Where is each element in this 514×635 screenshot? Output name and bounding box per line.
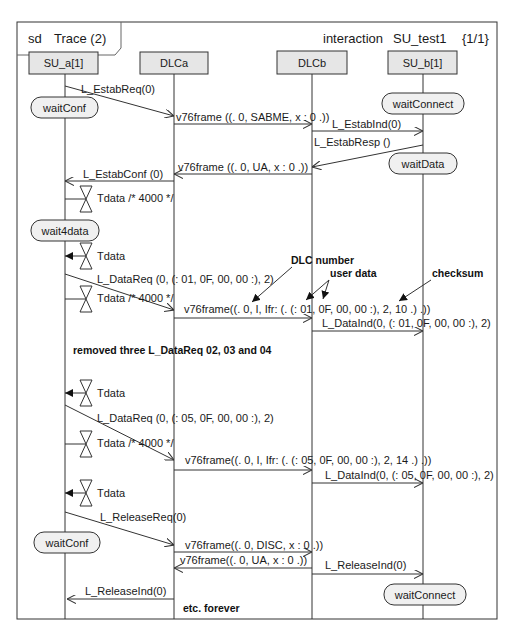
- svg-text:L_ReleaseReq(0): L_ReleaseReq(0): [100, 511, 186, 523]
- svg-text:v76frame ((. 0, SABME, x : 0 .: v76frame ((. 0, SABME, x : 0 .)): [176, 111, 329, 123]
- state-waitconf-1: waitConf: [31, 97, 98, 118]
- state-label: waitData: [401, 158, 446, 170]
- message-v76frame-ua: v76frame ((. 0, UA, x : 0 .)): [174, 161, 312, 174]
- state-waitdata: waitData: [389, 153, 457, 174]
- interaction-label: interaction: [323, 31, 383, 46]
- note-etc-forever: etc. forever: [183, 602, 240, 614]
- state-waitconf-2: waitConf: [34, 532, 100, 553]
- lifeline-label: DLCb: [298, 57, 326, 69]
- svg-text:DLC number: DLC number: [291, 254, 354, 266]
- state-waitconnect-2: waitConnect: [384, 584, 466, 605]
- svg-text:user data: user data: [330, 267, 377, 279]
- state-label: waitConnect: [394, 589, 456, 601]
- state-wait4data: wait4data: [31, 220, 99, 241]
- message-v76frame-disc: v76frame((. 0, DISC, x : 0 .)): [174, 539, 323, 552]
- svg-text:L_DataReq (0, (: 05, 0F, 00, 0: L_DataReq (0, (: 05, 0F, 00, 00 :), 2): [97, 412, 274, 424]
- state-label: waitConnect: [392, 98, 454, 110]
- svg-text:L_EstabConf (0): L_EstabConf (0): [83, 168, 163, 180]
- lifeline-label: SU_a[1]: [44, 57, 84, 69]
- svg-text:L_ReleaseInd(0): L_ReleaseInd(0): [85, 585, 166, 597]
- interaction-name: SU_test1: [393, 31, 446, 46]
- state-label: wait4data: [40, 225, 89, 237]
- svg-text:v76frame((. 0, I, Ifr: (. (: 0: v76frame((. 0, I, Ifr: (. (: 01, 0F, 00,…: [184, 303, 430, 315]
- svg-text:v76frame((. 0, DISC, x : 0 .)): v76frame((. 0, DISC, x : 0 .)): [185, 539, 323, 551]
- sequence-diagram: sd Trace (2) interaction SU_test1 {1/1} …: [0, 0, 514, 635]
- svg-text:Tdata /* 4000 */: Tdata /* 4000 */: [97, 192, 174, 204]
- state-label: waitConf: [45, 537, 90, 549]
- svg-text:v76frame((. 0, I, Ifr: (. (: 0: v76frame((. 0, I, Ifr: (. (: 05, 0F, 00,…: [185, 454, 431, 466]
- svg-text:L_EstabResp (): L_EstabResp (): [314, 136, 390, 148]
- message-dataind-01: L_DataInd(0, (: 01, 0F, 00, 00 :), 2): [312, 317, 491, 331]
- message-dataind-05: L_DataInd(0, (: 05, 0F, 00, 00 :), 2): [312, 469, 494, 483]
- svg-text:L_ReleaseInd(0): L_ReleaseInd(0): [325, 559, 406, 571]
- svg-text:L_DataReq (0, (: 01, 0F, 00, 0: L_DataReq (0, (: 01, 0F, 00, 00 :), 2): [97, 273, 274, 285]
- state-label: waitConf: [42, 102, 87, 114]
- note-removed-datareqs: removed three L_DataReq 02, 03 and 04: [73, 344, 272, 356]
- state-waitconnect-1: waitConnect: [382, 93, 464, 114]
- page-indicator: {1/1}: [462, 31, 489, 46]
- frame-name: Trace (2): [54, 31, 106, 46]
- svg-text:L_DataInd(0, (: 05, 0F, 00, 00: L_DataInd(0, (: 05, 0F, 00, 00 :), 2): [325, 469, 494, 481]
- svg-text:checksum: checksum: [432, 267, 483, 279]
- frame-kind: sd: [28, 31, 42, 46]
- svg-text:L_DataInd(0, (: 01, 0F, 00, 00: L_DataInd(0, (: 01, 0F, 00, 00 :), 2): [322, 317, 491, 329]
- svg-text:Tdata: Tdata: [97, 487, 126, 499]
- svg-text:Tdata: Tdata: [97, 250, 126, 262]
- svg-text:Tdata /* 4000 */: Tdata /* 4000 */: [97, 292, 174, 304]
- svg-text:v76frame ((. 0, UA, x : 0 .)): v76frame ((. 0, UA, x : 0 .)): [178, 161, 308, 173]
- svg-text:L_EstabInd(0): L_EstabInd(0): [332, 118, 401, 130]
- svg-text:v76frame((. 0, UA, x : 0 .)): v76frame((. 0, UA, x : 0 .)): [180, 554, 307, 566]
- svg-text:Tdata /* 4000 */: Tdata /* 4000 */: [97, 437, 174, 449]
- svg-text:L_EstabReq(0): L_EstabReq(0): [81, 83, 155, 95]
- lifeline-label: DLCa: [160, 57, 189, 69]
- message-v76frame-sabme: v76frame ((. 0, SABME, x : 0 .)): [174, 111, 329, 124]
- message-v76frame-ua-2: v76frame((. 0, UA, x : 0 .)): [174, 554, 312, 568]
- svg-text:Tdata: Tdata: [97, 387, 126, 399]
- lifeline-label: SU_b[1]: [403, 57, 443, 69]
